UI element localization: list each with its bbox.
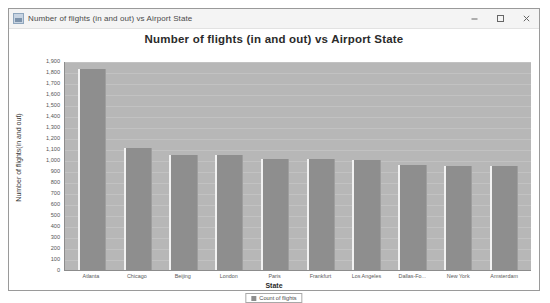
bar[interactable] [352, 160, 380, 270]
bar-series [65, 62, 531, 270]
y-axis-tick: 900 [51, 169, 60, 175]
bar-slot [69, 62, 115, 270]
y-axis-tick: 200 [51, 246, 60, 252]
window-titlebar[interactable]: Number of flights (in and out) vs Airpor… [9, 9, 539, 29]
y-axis-tick: 1,000 [46, 158, 60, 164]
chart-title: Number of flights (in and out) vs Airpor… [9, 33, 539, 45]
y-axis-tick: 1,400 [46, 114, 60, 120]
bar[interactable] [215, 155, 243, 271]
y-axis-tick-labels: 1,9001,8001,7001,6001,5001,4001,3001,200… [25, 62, 63, 271]
y-axis-tick: 800 [51, 180, 60, 186]
bar-slot [481, 62, 527, 270]
bar[interactable] [307, 159, 335, 270]
bar-slot [390, 62, 436, 270]
chart-canvas: Number of flights (in and out) vs Airpor… [9, 29, 539, 290]
y-axis-tick: 500 [51, 213, 60, 219]
legend-swatch-icon [251, 296, 256, 301]
y-axis-tick: 0 [57, 268, 60, 274]
chart-window-icon [13, 13, 24, 24]
chart-window: Number of flights (in and out) vs Airpor… [8, 8, 540, 291]
plot-area [64, 62, 531, 271]
bar[interactable] [398, 165, 426, 270]
bar[interactable] [261, 159, 289, 270]
bar-slot [252, 62, 298, 270]
y-axis-tick: 1,200 [46, 136, 60, 142]
y-axis-tick: 1,500 [46, 103, 60, 109]
bar[interactable] [124, 148, 152, 270]
bar-slot [115, 62, 161, 270]
chart-legend: Count of flights [245, 293, 302, 303]
y-axis-tick: 1,600 [46, 92, 60, 98]
y-axis-tick: 1,700 [46, 81, 60, 87]
y-axis-tick: 600 [51, 202, 60, 208]
y-axis-tick: 1,300 [46, 125, 60, 131]
bar[interactable] [78, 69, 106, 270]
bar-slot [161, 62, 207, 270]
y-axis-tick: 1,900 [46, 59, 60, 65]
bar-slot [206, 62, 252, 270]
y-axis-tick: 1,100 [46, 147, 60, 153]
close-button[interactable] [513, 9, 539, 28]
y-axis-tick: 300 [51, 235, 60, 241]
bar[interactable] [490, 166, 518, 270]
bar-slot [344, 62, 390, 270]
y-axis-tick: 1,800 [46, 70, 60, 76]
y-axis-tick: 400 [51, 224, 60, 230]
bar-slot [298, 62, 344, 270]
bar-slot [435, 62, 481, 270]
y-axis-title: Number of flights(in and out) [11, 75, 25, 240]
y-axis-tick: 100 [51, 257, 60, 263]
legend-label: Count of flights [259, 295, 296, 301]
bar[interactable] [169, 155, 197, 271]
maximize-button[interactable] [487, 9, 513, 28]
y-axis-title-label: Number of flights(in and out) [15, 113, 22, 201]
bar[interactable] [444, 166, 472, 271]
x-axis-title: State [9, 282, 539, 289]
y-axis-tick: 700 [51, 191, 60, 197]
minimize-button[interactable] [461, 9, 487, 28]
gridline [65, 270, 531, 271]
window-title: Number of flights (in and out) vs Airpor… [28, 14, 192, 23]
window-controls [461, 9, 539, 28]
